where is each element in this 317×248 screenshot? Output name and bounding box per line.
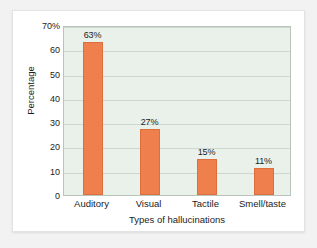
y-axis-tick-label: 50 <box>14 70 60 80</box>
figure-card: 010203040506070% Percentage 63%27%15%11%… <box>12 10 305 232</box>
x-axis-tick-label: Visual <box>136 198 162 209</box>
x-axis-tick-label: Smell/taste <box>239 198 286 209</box>
bar[interactable] <box>254 168 274 195</box>
x-axis-tick-label: Tactile <box>192 198 219 209</box>
bar-value-label: 15% <box>198 147 216 157</box>
bar-slot: 63% <box>64 27 121 195</box>
y-axis-tick-label: 10 <box>14 167 60 177</box>
y-axis-tick-label: 0 <box>14 191 60 201</box>
plot-area: 63%27%15%11% <box>63 26 291 196</box>
x-axis-title: Types of hallucinations <box>63 214 291 225</box>
x-axis-tick-labels: AuditoryVisualTactileSmell/taste <box>63 198 291 214</box>
bar[interactable] <box>83 42 103 195</box>
y-axis-title: Percentage <box>25 46 36 136</box>
bar-slot: 27% <box>121 27 178 195</box>
bar-value-label: 63% <box>84 30 102 40</box>
y-axis-tick-label: 20 <box>14 142 60 152</box>
y-axis-tick-label: 60 <box>14 45 60 55</box>
bar[interactable] <box>140 129 160 195</box>
bar-value-label: 27% <box>141 117 159 127</box>
y-axis-tick-label: 40 <box>14 94 60 104</box>
y-axis-tick-label: 30 <box>14 118 60 128</box>
bar-value-label: 11% <box>255 156 272 166</box>
x-axis-tick-label: Auditory <box>74 198 109 209</box>
y-axis-tick-label: 70% <box>14 21 60 31</box>
bar-slot: 11% <box>235 27 292 195</box>
bar[interactable] <box>197 159 217 195</box>
y-axis-tick-labels: 010203040506070% <box>13 26 60 196</box>
bar-chart: 010203040506070% Percentage 63%27%15%11%… <box>13 11 306 233</box>
bar-slot: 15% <box>178 27 235 195</box>
bars-layer: 63%27%15%11% <box>64 27 290 195</box>
